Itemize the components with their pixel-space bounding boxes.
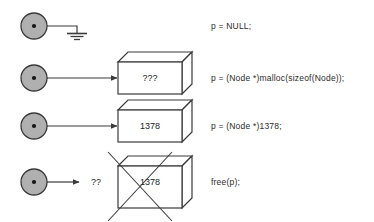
diagram-canvas: ??? 1378 ?? <box>0 0 374 222</box>
pointer-node <box>21 13 47 39</box>
box-top-face <box>118 100 192 110</box>
row-assign: 1378 <box>47 100 192 142</box>
ground-wire <box>47 26 77 33</box>
dangling-pointer-label: ?? <box>91 177 101 187</box>
pointer-node <box>21 169 47 195</box>
row-malloc: ??? <box>47 52 192 94</box>
pointer-node <box>21 113 47 139</box>
box-value-label: 1378 <box>140 177 160 187</box>
caption-malloc: p = (Node *)malloc(sizeof(Node)); <box>211 73 344 83</box>
caption-free: free(p); <box>211 177 240 187</box>
box-value-label: 1378 <box>140 121 160 131</box>
box-top-face <box>118 156 192 166</box>
row-free: ?? 1378 <box>47 152 192 221</box>
box-top-face <box>118 52 192 62</box>
box-side-face <box>182 156 192 208</box>
box-front-face <box>118 166 182 208</box>
pointer-node <box>21 65 47 91</box>
caption-null: p = NULL; <box>211 21 251 31</box>
box-value-label: ??? <box>142 73 157 83</box>
pointer-lifecycle-diagram: ??? 1378 ?? <box>0 0 374 222</box>
row-null <box>21 13 87 40</box>
ground-icon <box>67 34 87 40</box>
caption-assign: p = (Node *)1378; <box>211 121 282 131</box>
